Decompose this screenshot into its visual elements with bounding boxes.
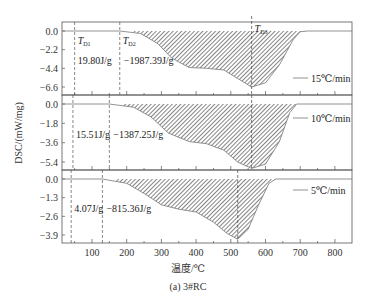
enthalpy-2: −815.36J/g — [106, 203, 151, 214]
x-tick-label: 100 — [85, 247, 100, 258]
y-tick-label: 0.0 — [46, 26, 59, 37]
legend-label: 10℃/min — [311, 113, 351, 124]
x-axis: 100200300400500600700800 — [85, 247, 343, 258]
td-label: TD1 — [78, 35, 91, 47]
y-tick-label: −3.9 — [40, 230, 58, 241]
y-tick-label: −1.3 — [40, 192, 58, 203]
panel-1: 0.0−2.2−4.4−6.619.80J/g−1987.39J/g15℃/mi… — [40, 16, 352, 95]
x-tick-label: 300 — [154, 247, 169, 258]
y-tick-label: −3.6 — [40, 137, 58, 148]
legend-label: 15℃/min — [311, 73, 351, 84]
legend-label: 5℃/min — [311, 185, 346, 196]
td-label: TD2 — [123, 35, 136, 47]
y-tick-label: 0.0 — [46, 174, 59, 185]
td-label: TD3 — [255, 23, 268, 35]
y-tick-label: −5.4 — [40, 157, 58, 168]
y-tick-label: −6.6 — [40, 82, 58, 93]
enthalpy-1: 15.51J/g — [76, 129, 110, 140]
y-tick-label: −2.6 — [40, 211, 58, 222]
dsc-chart: 0.0−2.2−4.4−6.619.80J/g−1987.39J/g15℃/mi… — [0, 0, 371, 302]
y-tick-label: −4.4 — [40, 63, 58, 74]
x-axis-label: 温度/℃ — [171, 262, 205, 274]
y-tick-label: 0.0 — [46, 99, 59, 110]
x-tick-label: 400 — [189, 247, 204, 258]
x-tick-label: 200 — [119, 247, 134, 258]
x-tick-label: 800 — [327, 247, 342, 258]
x-tick-label: 500 — [223, 247, 238, 258]
panel-2: 0.0−1.8−3.6−5.415.51J/g−1387.25J/g10℃/mi… — [40, 95, 352, 170]
figure-caption: (a) 3#RC — [170, 281, 207, 293]
x-tick-label: 700 — [293, 247, 308, 258]
enthalpy-2: −1387.25J/g — [113, 129, 163, 140]
y-axis-label: DSC/(mW/mg) — [13, 102, 25, 164]
y-tick-label: −1.8 — [40, 118, 58, 129]
enthalpy-1: 4.07J/g — [74, 203, 103, 214]
x-tick-label: 600 — [258, 247, 273, 258]
panel-3: 0.0−1.3−2.6−3.94.07J/g−815.36J/g5℃/min — [40, 170, 352, 243]
enthalpy-1: 19.80J/g — [78, 55, 112, 66]
enthalpy-2: −1987.39J/g — [124, 55, 174, 66]
y-tick-label: −2.2 — [40, 44, 58, 55]
